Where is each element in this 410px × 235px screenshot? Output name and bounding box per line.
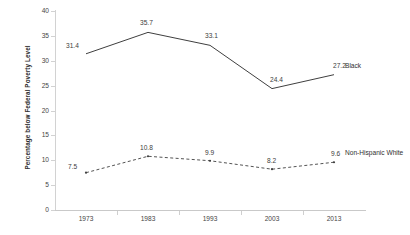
series-label-black: Black — [345, 62, 361, 69]
data-point-marker — [333, 161, 335, 163]
value-label-black-1993: 33.1 — [205, 32, 218, 39]
series-line-non-hispanic-white — [86, 156, 334, 172]
poverty-line-chart: Percentage below Federal Poverty Level 0… — [0, 0, 410, 235]
value-label-black-2013: 27.2 — [333, 62, 346, 69]
value-label-non-hispanic-white-1993: 9.9 — [205, 149, 214, 156]
value-label-non-hispanic-white-2003: 8.2 — [267, 157, 276, 164]
data-point-marker — [271, 168, 273, 170]
value-label-black-2003: 24.4 — [270, 76, 283, 83]
value-label-black-1973: 31.4 — [66, 42, 79, 49]
data-point-marker — [147, 155, 149, 157]
series-line-black — [86, 32, 334, 88]
series-label-non-hispanic-white: Non-Hispanic White — [345, 149, 403, 156]
value-label-black-1983: 35.7 — [140, 19, 153, 26]
data-point-marker — [85, 172, 87, 174]
data-point-marker — [209, 160, 211, 162]
value-label-non-hispanic-white-2013: 9.6 — [331, 150, 340, 157]
value-label-non-hispanic-white-1983: 10.8 — [140, 144, 153, 151]
value-label-non-hispanic-white-1973: 7.5 — [68, 163, 77, 170]
